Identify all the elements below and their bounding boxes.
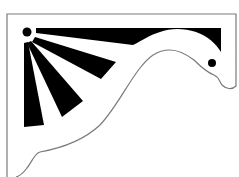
sun-dot bbox=[23, 28, 32, 37]
bracket-illustration bbox=[0, 0, 239, 177]
eye-dot bbox=[208, 59, 216, 67]
